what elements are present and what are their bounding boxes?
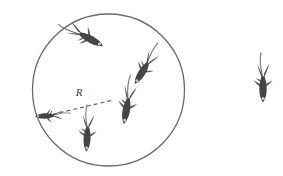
fish-bottom-inside <box>78 104 98 152</box>
fish-upper-right-inside <box>127 40 167 89</box>
school-boundary-circle <box>33 14 185 166</box>
fish-school-figure: R <box>0 0 283 176</box>
fish-top-inside <box>55 14 107 54</box>
figure-canvas: R <box>0 0 283 176</box>
radius-label: R <box>75 86 83 98</box>
fish-left-edge <box>35 108 71 123</box>
fish-isolated-right <box>254 53 273 103</box>
